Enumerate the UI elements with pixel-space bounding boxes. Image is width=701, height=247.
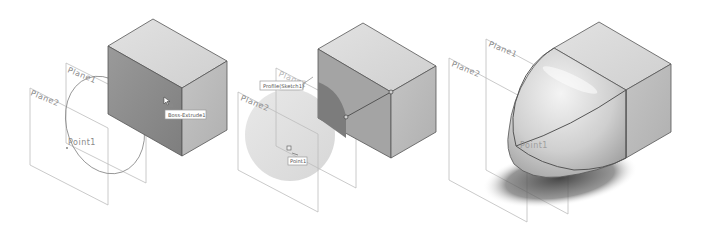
plane1-label: Plane1 (66, 66, 97, 86)
plane2-label: Plane2 (29, 89, 60, 109)
plane1-label: Plane1 (487, 40, 518, 60)
panel-2: Plane2 Plane1 Profile(Sketch1) Point1 (238, 23, 436, 212)
tooltip-boss-extrude: Boss-Extrude1 (165, 110, 206, 119)
panel-3: Plane1 Plane2 Point1 (449, 22, 671, 222)
vertex-marker-1[interactable] (344, 115, 348, 119)
svg-text:Boss-Extrude1: Boss-Extrude1 (168, 112, 206, 118)
plane2-label: Plane2 (450, 60, 481, 80)
vertex-marker-2[interactable] (389, 90, 393, 94)
panel-1: Plane1 Plane2 Point1 Boss-Extrude1 (29, 19, 227, 205)
point1-label: Point1 (520, 141, 548, 150)
point1-label: Point1 (68, 138, 96, 147)
svg-text:Profile(Sketch1): Profile(Sketch1) (263, 83, 304, 89)
cad-figure: Plane1 Plane2 Point1 Boss-Extrude1 Plane… (0, 0, 701, 247)
point1-marker[interactable] (66, 147, 68, 149)
svg-text:Point1: Point1 (290, 158, 306, 164)
point-marker[interactable] (287, 146, 291, 150)
